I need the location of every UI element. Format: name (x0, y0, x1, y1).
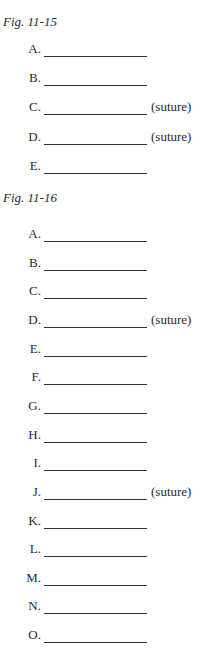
answer-row: J. (suture) (0, 484, 204, 500)
answer-row: A. (0, 41, 204, 57)
answer-row: C. (suture) (0, 99, 204, 115)
answer-row: O. (0, 627, 204, 643)
answer-blank[interactable] (44, 470, 147, 471)
answer-row: G. (0, 398, 204, 414)
answer-label: H. (28, 427, 41, 442)
answer-row: E. (0, 341, 204, 357)
answer-blank[interactable] (44, 442, 147, 443)
answer-blank[interactable] (44, 241, 147, 242)
answer-label: B. (29, 70, 41, 85)
answer-blank[interactable] (44, 114, 147, 115)
answer-blank[interactable] (44, 144, 147, 145)
answer-note: (suture) (151, 484, 191, 499)
section-heading-fig-11-15: Fig. 11-15 (3, 14, 57, 29)
answer-label: A. (28, 41, 41, 56)
answer-label: D. (28, 312, 41, 327)
answer-label: F. (32, 369, 41, 384)
answer-blank[interactable] (44, 642, 147, 643)
answer-row: K. (0, 513, 204, 529)
answer-label: M. (26, 570, 41, 585)
answer-blank[interactable] (44, 556, 147, 557)
answer-row: L. (0, 541, 204, 557)
answer-label: K. (28, 513, 41, 528)
answer-row: H. (0, 427, 204, 443)
answer-label: A. (28, 226, 41, 241)
answer-label: G. (28, 398, 41, 413)
answer-blank[interactable] (44, 528, 147, 529)
answer-label: I. (33, 455, 41, 470)
section-heading-fig-11-16: Fig. 11-16 (3, 190, 57, 205)
answer-row: C. (0, 283, 204, 299)
answer-note: (suture) (151, 99, 191, 114)
answer-label: J. (33, 484, 41, 499)
answer-label: N. (28, 598, 41, 613)
answer-blank[interactable] (44, 613, 147, 614)
answer-label: E. (30, 341, 41, 356)
answer-blank[interactable] (44, 585, 147, 586)
answer-row: D. (suture) (0, 312, 204, 328)
answer-row: F. (0, 369, 204, 385)
answer-row: B. (0, 255, 204, 271)
answer-blank[interactable] (44, 499, 147, 500)
answer-blank[interactable] (44, 327, 147, 328)
answer-row: M. (0, 570, 204, 586)
answer-row: N. (0, 598, 204, 614)
answer-row: I. (0, 455, 204, 471)
answer-note: (suture) (151, 129, 191, 144)
answer-blank[interactable] (44, 384, 147, 385)
answer-blank[interactable] (44, 413, 147, 414)
answer-row: B. (0, 70, 204, 86)
answer-blank[interactable] (44, 173, 147, 174)
answer-blank[interactable] (44, 356, 147, 357)
answer-label: C. (29, 283, 41, 298)
answer-row: A. (0, 226, 204, 242)
answer-blank[interactable] (44, 270, 147, 271)
answer-label: E. (30, 158, 41, 173)
answer-label: D. (28, 129, 41, 144)
answer-blank[interactable] (44, 56, 147, 57)
answer-label: L. (30, 541, 41, 556)
answer-label: C. (29, 99, 41, 114)
answer-blank[interactable] (44, 298, 147, 299)
answer-label: O. (28, 627, 41, 642)
answer-note: (suture) (151, 312, 191, 327)
answer-label: B. (29, 255, 41, 270)
answer-row: E. (0, 158, 204, 174)
answer-row: D. (suture) (0, 129, 204, 145)
answer-blank[interactable] (44, 85, 147, 86)
